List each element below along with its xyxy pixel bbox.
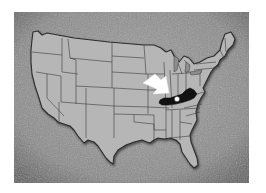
us-map-photo bbox=[14, 12, 249, 183]
kentucky-marker-icon bbox=[174, 96, 179, 101]
